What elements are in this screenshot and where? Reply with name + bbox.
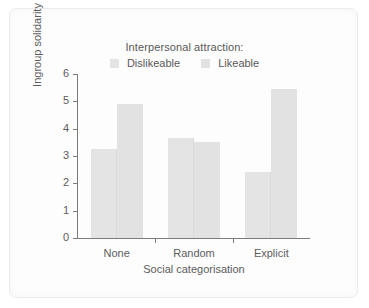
x-tick-1 bbox=[155, 238, 156, 243]
bar-none-likeable bbox=[117, 104, 143, 238]
y-tick-label-4: 4 bbox=[63, 122, 69, 135]
y-tick-label-6: 6 bbox=[63, 67, 69, 80]
bar-random-likeable bbox=[194, 142, 220, 238]
legend-entry-dislikeable: Dislikeable bbox=[110, 56, 180, 70]
y-tick-3: 3 bbox=[73, 156, 78, 157]
y-tick-label-3: 3 bbox=[63, 149, 69, 162]
bar-explicit-likeable bbox=[271, 89, 297, 238]
y-tick-label-5: 5 bbox=[63, 94, 69, 107]
legend-swatch-likeable bbox=[201, 59, 210, 68]
y-tick-0: 0 bbox=[73, 238, 78, 239]
x-tick-label-none: None bbox=[78, 246, 155, 260]
y-tick-1: 1 bbox=[73, 211, 78, 212]
bar-random-dislikeable bbox=[168, 138, 194, 238]
legend-title: Interpersonal attraction: bbox=[0, 40, 369, 54]
x-tick-2 bbox=[233, 238, 234, 243]
plot-area: 0123456 NoneRandomExplicit bbox=[78, 74, 310, 238]
x-axis-line bbox=[77, 238, 310, 239]
y-tick-label-1: 1 bbox=[63, 204, 69, 217]
x-tick-label-explicit: Explicit bbox=[233, 246, 310, 260]
y-tick-6: 6 bbox=[73, 74, 78, 75]
y-tick-label-2: 2 bbox=[63, 176, 69, 189]
legend-swatch-dislikeable bbox=[110, 59, 119, 68]
chart-legend: Interpersonal attraction: Dislikeable Li… bbox=[0, 40, 369, 70]
y-tick-2: 2 bbox=[73, 183, 78, 184]
x-axis-title: Social categorisation bbox=[78, 262, 310, 276]
legend-entries: Dislikeable Likeable bbox=[0, 56, 369, 70]
y-tick-4: 4 bbox=[73, 129, 78, 130]
legend-label-dislikeable: Dislikeable bbox=[127, 56, 180, 70]
x-tick-label-random: Random bbox=[155, 246, 232, 260]
y-tick-5: 5 bbox=[73, 101, 78, 102]
bar-none-dislikeable bbox=[91, 149, 117, 238]
chart-figure: Interpersonal attraction: Dislikeable Li… bbox=[0, 0, 369, 308]
y-axis-title: Ingroup solidarity bbox=[30, 0, 44, 100]
legend-label-likeable: Likeable bbox=[218, 56, 259, 70]
legend-entry-likeable: Likeable bbox=[201, 56, 259, 70]
bar-explicit-dislikeable bbox=[245, 172, 271, 238]
y-tick-label-0: 0 bbox=[63, 231, 69, 244]
